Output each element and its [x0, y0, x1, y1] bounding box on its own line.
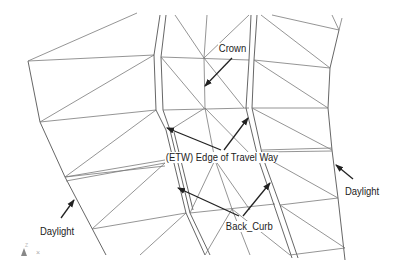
- edge-of-travel-way-label: (ETW) Edge of Travel Way: [165, 152, 279, 163]
- crown-leader: [205, 58, 232, 86]
- daylight-left-label: Daylight: [40, 226, 74, 237]
- ucs-axis-icon: Z ×: [14, 240, 44, 260]
- daylight-right-label: Daylight: [345, 186, 379, 197]
- etw-leader-right: [224, 118, 248, 150]
- back-curb-label: Back_Curb: [225, 221, 274, 232]
- daylight-left-leader: [61, 200, 74, 218]
- ucs-x-label: ×: [36, 249, 40, 256]
- ucs-z-label: Z: [25, 242, 28, 248]
- daylight-right-leader: [336, 165, 353, 179]
- etw-leader-left: [167, 128, 221, 150]
- crown-label: Crown: [218, 43, 247, 54]
- back-curb-leader-right: [243, 183, 270, 216]
